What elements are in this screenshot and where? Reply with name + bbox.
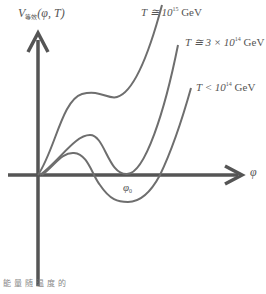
legend-t-lt-1e14: T < 1014 GeV	[196, 81, 255, 93]
caption: 能量随温度的	[3, 277, 69, 288]
potential-diagram: V等效(φ, T) φ φ0 T ≅ 1015 GeV T ≅ 3 × 1014…	[0, 0, 266, 294]
y-axis	[28, 33, 48, 286]
legend-t-1e15: T ≅ 1015 GeV	[141, 6, 202, 19]
curve-t-1e15	[38, 5, 162, 175]
curve-t-lt-1e14	[42, 88, 191, 202]
legend-t-3e14: T ≅ 3 × 1014 GeV	[185, 36, 264, 49]
y-axis-label: V等效(φ, T)	[18, 6, 65, 21]
phi0-label: φ0	[123, 181, 132, 194]
curve-t-3e14	[40, 45, 178, 175]
x-axis-label: φ	[250, 165, 257, 180]
